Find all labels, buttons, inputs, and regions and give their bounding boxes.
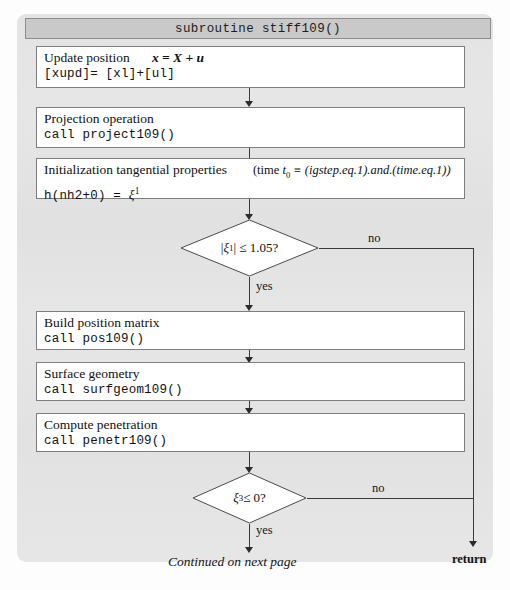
box-init-tangential-text: Initialization tangential properties	[44, 162, 227, 177]
arrowhead-continued	[245, 547, 253, 553]
box-build-position-matrix-code: call pos109()	[44, 331, 464, 347]
box-projection-operation: Projection operation call project109()	[36, 107, 465, 148]
subroutine-title-bar: subroutine stiff109()	[25, 18, 491, 39]
branch-no-decision1-vertical	[473, 248, 474, 543]
box-init-tangential-note: (time t0 ≡ (igstep.eq.1).and.(time.eq.1)…	[253, 163, 451, 177]
box-surface-geometry-code: call surfgeom109()	[44, 382, 464, 398]
arrowhead-return	[469, 541, 477, 547]
branch-yes-decision1	[249, 277, 250, 308]
decision-xi3: ξ3 ≤ 0?	[192, 472, 307, 524]
label-no-decision2: no	[372, 481, 385, 496]
decision-xi3-label: ξ3 ≤ 0?	[192, 472, 307, 524]
decision-xi1-label: |ξ1| ≤ 1.05?	[180, 219, 319, 277]
continued-on-next-page-label: Continued on next page	[168, 554, 297, 570]
subroutine-title-text: subroutine stiff109()	[175, 22, 341, 36]
branch-no-decision2-horizontal	[307, 498, 473, 499]
box-surface-geometry: Surface geometry call surfgeom109()	[36, 362, 465, 401]
box-update-position-code: [xupd]= [xl]+[ul]	[44, 66, 464, 82]
label-yes-decision2: yes	[256, 523, 273, 538]
return-label: return	[452, 552, 487, 567]
box-compute-penetration: Compute penetration call penetr109()	[36, 413, 465, 452]
box-init-tangential: Initialization tangential properties(tim…	[36, 158, 465, 199]
box-update-position: Update positionx = X + u [xupd]= [xl]+[u…	[36, 46, 465, 88]
box-projection-operation-text: Projection operation	[44, 111, 464, 127]
box-update-position-line1: Update positionx = X + u	[44, 50, 464, 66]
box-compute-penetration-code: call penetr109()	[44, 433, 464, 449]
flowchart-figure: subroutine stiff109() Update positionx =…	[0, 0, 510, 590]
box-init-tangential-line1: Initialization tangential properties(tim…	[44, 162, 464, 183]
box-update-position-math: x = X + u	[152, 50, 204, 65]
branch-no-decision1-horizontal	[319, 248, 473, 249]
box-init-tangential-code: h(nh2+0) = ξ1	[44, 183, 464, 204]
box-build-position-matrix-text: Build position matrix	[44, 315, 464, 331]
label-no-decision1: no	[368, 231, 381, 246]
label-yes-decision1: yes	[256, 279, 273, 294]
decision-xi1: |ξ1| ≤ 1.05?	[180, 219, 319, 277]
box-surface-geometry-text: Surface geometry	[44, 366, 464, 382]
box-projection-operation-code: call project109()	[44, 127, 464, 143]
box-build-position-matrix: Build position matrix call pos109()	[36, 311, 465, 350]
box-compute-penetration-text: Compute penetration	[44, 417, 464, 433]
box-update-position-text: Update position	[44, 50, 130, 65]
